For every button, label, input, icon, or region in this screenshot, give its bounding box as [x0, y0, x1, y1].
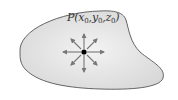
- point-p-marker: [81, 49, 86, 54]
- point-label: P(x0,y0,z0): [67, 11, 119, 25]
- diagram-canvas: P(x0,y0,z0): [0, 0, 178, 100]
